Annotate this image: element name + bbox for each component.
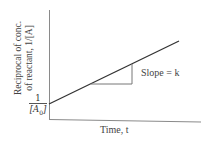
intercept-numerator: 1 xyxy=(29,93,47,104)
y-axis-label: Reciprocal of conc. of reactant, 1/[A] xyxy=(4,10,44,106)
slope-annotation: Slope = k xyxy=(141,67,179,78)
y-axis-label-line2: of reactant, 1/[A] xyxy=(24,21,35,95)
y-axis-label-line1: Reciprocal of conc. xyxy=(13,21,24,95)
x-axis-label: Time, t xyxy=(100,124,129,135)
y-intercept-label: 1 [A0] xyxy=(29,93,47,118)
intercept-denominator: [A0] xyxy=(29,104,47,118)
x-axis xyxy=(49,120,201,123)
